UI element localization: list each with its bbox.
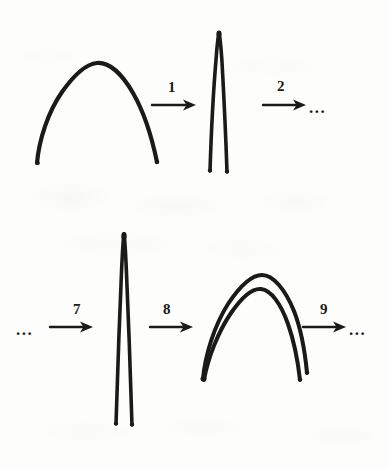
step-arrow-8-label: 8 [163,302,171,317]
narrow-spike-curve [208,31,229,174]
narrow-spike-curve-tall [114,232,134,426]
step-arrow-9 [303,322,346,333]
diagram-strokes [0,0,389,469]
leading-ellipsis-bottom: ... [16,321,33,338]
step-arrow-9-label: 9 [320,302,328,317]
wide-arch-curve [35,63,159,165]
step-arrow-7-label: 7 [73,302,81,317]
step-arrow-8 [150,322,193,333]
step-arrow-1-label: 1 [168,80,176,95]
step-arrow-2-label: 2 [277,79,285,94]
trailing-ellipsis-bottom: ... [349,321,366,338]
step-arrow-1 [152,100,196,111]
step-arrow-2 [263,100,306,111]
double-arch-curve [201,275,310,382]
step-arrow-7 [50,322,93,333]
trailing-ellipsis-top: ... [309,99,326,116]
figure-canvas: 1 2 7 8 9 ... ... ... [0,0,389,469]
